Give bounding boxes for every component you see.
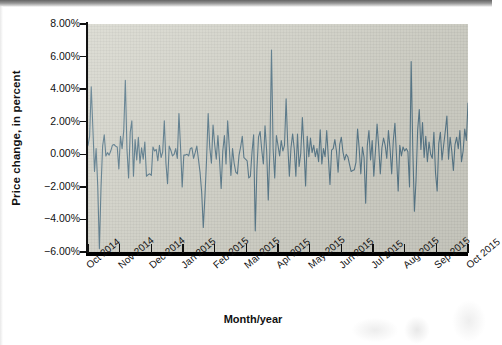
plot-area <box>88 24 468 252</box>
x-axis-tick <box>87 244 89 253</box>
y-axis-labels: 8.00%6.00%4.00%2.00%0.00%−2.00%−4.00%−6.… <box>0 0 80 300</box>
x-axis-title: Month/year <box>188 313 318 325</box>
y-axis-tick-label: 4.00% <box>8 82 80 94</box>
y-axis-tick-label: −6.00% <box>8 245 80 257</box>
y-axis-tick-label: 6.00% <box>8 50 80 62</box>
y-axis-tick-label: 8.00% <box>8 17 80 29</box>
y-axis-tick-label: 0.00% <box>8 147 80 159</box>
y-axis-tick-label: −2.00% <box>8 180 80 192</box>
y-axis-tick-label: −4.00% <box>8 212 80 224</box>
data-series-line <box>88 24 468 252</box>
y-axis-tick-label: 2.00% <box>8 115 80 127</box>
